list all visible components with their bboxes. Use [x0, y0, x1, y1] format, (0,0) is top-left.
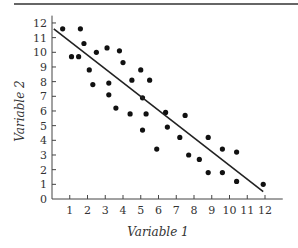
y-tick-label: 10	[33, 46, 47, 59]
x-tick-label: 1	[66, 204, 73, 217]
data-point	[234, 149, 239, 154]
x-tick-label: 11	[240, 204, 254, 217]
x-tick-label: 5	[137, 204, 144, 217]
data-point	[186, 152, 191, 157]
y-tick-label: 1	[40, 178, 47, 191]
data-point	[143, 111, 148, 116]
y-tick-label: 11	[33, 32, 47, 45]
y-axis-title: Variable 2	[13, 80, 27, 142]
data-point	[177, 135, 182, 140]
y-tick-label: 7	[40, 90, 47, 103]
x-tick-label: 2	[84, 204, 91, 217]
x-tick-label: 3	[102, 204, 109, 217]
data-point	[128, 111, 133, 116]
data-point	[90, 82, 95, 87]
axes: 1234567891011120123456789101112	[33, 16, 283, 217]
data-point	[206, 170, 211, 175]
data-point	[60, 26, 65, 31]
x-tick-label: 4	[120, 204, 127, 217]
data-point	[129, 78, 134, 83]
y-tick-label: 2	[40, 164, 47, 177]
y-tick-label: 5	[40, 120, 47, 133]
y-tick-label: 0	[40, 193, 47, 206]
regression-line	[54, 29, 263, 192]
data-point	[183, 113, 188, 118]
data-point	[117, 48, 122, 53]
x-tick-label: 7	[173, 204, 180, 217]
data-point	[234, 179, 239, 184]
data-point	[220, 170, 225, 175]
data-point	[69, 54, 74, 59]
data-point	[261, 182, 266, 187]
y-tick-label: 8	[40, 76, 47, 89]
x-axis-title: Variable 1	[127, 225, 189, 239]
x-tick-label: 8	[191, 204, 198, 217]
y-tick-label: 4	[40, 134, 47, 147]
data-point	[94, 50, 99, 55]
data-point	[76, 54, 81, 59]
data-point	[106, 81, 111, 86]
data-points	[60, 26, 266, 187]
x-tick-label: 9	[208, 204, 215, 217]
data-point	[206, 135, 211, 140]
data-point	[104, 45, 109, 50]
data-point	[81, 41, 86, 46]
data-point	[120, 60, 125, 65]
y-tick-label: 12	[33, 17, 47, 30]
x-tick-label: 12	[258, 204, 272, 217]
x-tick-label: 10	[223, 204, 237, 217]
data-point	[106, 92, 111, 97]
data-point	[87, 67, 92, 72]
data-point	[140, 127, 145, 132]
y-tick-label: 6	[40, 105, 47, 118]
y-tick-label: 3	[40, 149, 47, 162]
data-point	[165, 125, 170, 130]
data-point	[113, 105, 118, 110]
data-point	[197, 157, 202, 162]
data-point	[78, 26, 83, 31]
data-point	[154, 147, 159, 152]
y-tick-label: 9	[40, 61, 47, 74]
data-point	[220, 147, 225, 152]
x-tick-label: 6	[155, 204, 162, 217]
data-point	[147, 78, 152, 83]
scatter-chart: 1234567891011120123456789101112 Variable…	[0, 0, 298, 248]
data-point	[138, 67, 143, 72]
